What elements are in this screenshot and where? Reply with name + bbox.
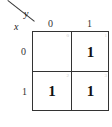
cell-index: 2 [67, 73, 70, 78]
column-label-0: 0 [48, 19, 53, 29]
kmap-cell-11: 3 1 [72, 72, 109, 110]
row-label-0: 0 [21, 47, 26, 57]
corner-diagonal-line [7, 0, 34, 22]
kmap-cell-00: 0 [33, 32, 71, 71]
row-variable-label: x [14, 22, 18, 32]
kmap-grid: 0 1 1 2 1 3 1 [32, 31, 109, 111]
kmap-cell-10: 2 1 [33, 72, 71, 110]
cell-index: 3 [105, 73, 108, 78]
kmap-cell-01: 1 1 [72, 32, 109, 71]
column-label-1: 1 [87, 19, 92, 29]
row-label-1: 1 [22, 87, 27, 97]
column-variable-label: y [24, 9, 28, 19]
cell-value: 1 [72, 44, 109, 59]
cell-value: 1 [33, 84, 71, 99]
cell-value: 1 [72, 84, 109, 99]
cell-index: 1 [105, 33, 108, 38]
cell-index: 0 [67, 33, 70, 38]
